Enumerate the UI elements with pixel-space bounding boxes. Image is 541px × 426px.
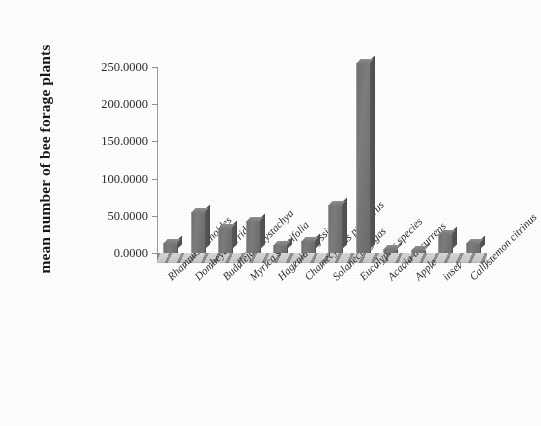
bar[interactable] <box>191 212 206 253</box>
bar[interactable] <box>163 243 178 253</box>
bar[interactable] <box>411 250 426 253</box>
y-axis-title: mean number of bee forage plants <box>36 19 54 299</box>
y-tick-label: 0.0000 <box>114 246 148 261</box>
y-tick-mark <box>152 253 158 254</box>
bar[interactable] <box>466 243 481 253</box>
y-tick-label: 100.0000 <box>101 171 148 186</box>
bar-chart: mean number of bee forage plants 0.00005… <box>0 0 541 426</box>
y-tick-label: 150.0000 <box>101 134 148 149</box>
bar[interactable] <box>438 234 453 253</box>
y-tick-mark <box>152 104 158 105</box>
bar[interactable] <box>246 221 261 253</box>
y-tick-mark <box>152 179 158 180</box>
y-tick-mark <box>152 67 158 68</box>
bar[interactable] <box>301 241 316 253</box>
y-tick-mark <box>152 216 158 217</box>
y-tick-label: 250.0000 <box>101 60 148 75</box>
bar[interactable] <box>273 245 288 253</box>
bar[interactable] <box>356 63 371 253</box>
y-axis-line <box>157 68 158 262</box>
bar[interactable] <box>383 249 398 253</box>
y-tick-label: 200.0000 <box>101 97 148 112</box>
bar[interactable] <box>328 205 343 253</box>
bar[interactable] <box>218 228 233 253</box>
y-tick-label: 50.0000 <box>107 208 148 223</box>
y-tick-mark <box>152 141 158 142</box>
